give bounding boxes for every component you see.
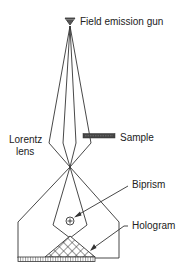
- holography-diagram: Field emission gun Sample Lorentz lens B…: [0, 0, 188, 277]
- biprism-label: Biprism: [132, 179, 165, 190]
- hologram-interference-region: [45, 236, 95, 257]
- hologram-label: Hologram: [132, 220, 175, 231]
- lower-inner-rays: [53, 167, 87, 238]
- gun-label: Field emission gun: [80, 16, 163, 27]
- hologram-pointer-arrow: [90, 226, 128, 251]
- biprism-icon: [66, 217, 74, 225]
- sample-label: Sample: [120, 132, 154, 143]
- upper-beam-rays: [49, 26, 91, 143]
- lens-label-line2: lens: [16, 146, 34, 157]
- field-emission-gun-icon: [65, 18, 75, 25]
- lens-to-crossover-rays: [49, 143, 91, 167]
- lens-label-line1: Lorentz: [9, 134, 42, 145]
- detector-strip: [18, 257, 95, 262]
- biprism-pointer-arrow: [74, 186, 128, 218]
